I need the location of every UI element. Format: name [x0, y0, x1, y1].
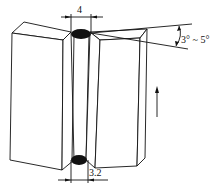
bottom-gap-label: 3.2	[89, 168, 102, 178]
angle-label: 3° ~ 5°	[181, 35, 209, 45]
weld-bead-top	[71, 29, 91, 39]
weld-bead-bottom	[71, 155, 87, 165]
top-gap-label: 4	[77, 5, 82, 15]
weld-diagram	[0, 0, 212, 192]
right-block-front	[95, 38, 140, 168]
left-block-front	[10, 33, 63, 170]
